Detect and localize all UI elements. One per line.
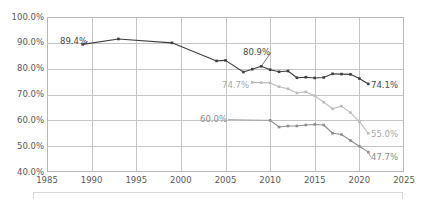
gridline-vertical bbox=[181, 18, 182, 171]
chart-container: 100.0%90.0%80.0%70.0%60.0%50.0%40.0% 198… bbox=[0, 0, 424, 199]
gridline-vertical bbox=[270, 18, 271, 171]
chart-title bbox=[0, 0, 424, 2]
gridline-vertical bbox=[315, 18, 316, 171]
label-60-0: 60.0% bbox=[200, 115, 227, 124]
x-axis-tick-label: 2025 bbox=[384, 175, 424, 185]
y-axis-tick-label: 50.0% bbox=[2, 142, 44, 151]
x-axis-tick-label: 1995 bbox=[116, 175, 156, 185]
gridline-vertical bbox=[92, 18, 93, 171]
x-axis-tick-label: 1985 bbox=[27, 175, 67, 185]
y-axis-tick-label: 70.0% bbox=[2, 90, 44, 99]
y-axis-tick-label: 80.0% bbox=[2, 64, 44, 73]
x-axis-tick-label: 2005 bbox=[206, 175, 246, 185]
x-axis-tick-label: 2000 bbox=[161, 175, 201, 185]
y-axis-tick-label: 60.0% bbox=[2, 116, 44, 125]
gridline-vertical bbox=[136, 18, 137, 171]
x-axis-tick-label: 1990 bbox=[72, 175, 112, 185]
y-axis-tick-label: 90.0% bbox=[2, 38, 44, 47]
x-axis-tick-label: 2015 bbox=[295, 175, 335, 185]
x-axis-tick-label: 2020 bbox=[339, 175, 379, 185]
label-80-9: 80.9% bbox=[243, 48, 270, 57]
bottom-rule bbox=[33, 192, 403, 199]
label-89-4: 89.4% bbox=[60, 37, 87, 46]
x-axis-tick-label: 2010 bbox=[250, 175, 290, 185]
label-74-7: 74.7% bbox=[222, 81, 249, 90]
gridline-vertical bbox=[359, 18, 360, 171]
label-55-0: 55.0% bbox=[371, 130, 398, 139]
plot-area bbox=[47, 17, 404, 172]
label-47-7: 47.7% bbox=[371, 153, 398, 162]
label-74-1: 74.1% bbox=[371, 81, 398, 90]
gridline-vertical bbox=[226, 18, 227, 171]
y-axis-tick-label: 100.0% bbox=[2, 13, 44, 22]
